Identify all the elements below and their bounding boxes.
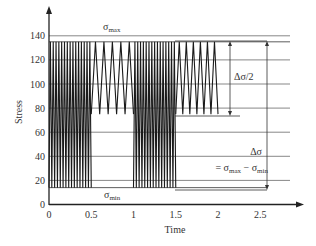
y-tick-label: 60 (35, 127, 45, 138)
stress-signal (49, 42, 218, 188)
x-tick-label: 2.5 (254, 209, 267, 220)
y-tick-label: 140 (30, 30, 45, 41)
signal-segment (91, 42, 133, 114)
half-range-label: Δσ/2 (234, 71, 254, 82)
arrow-down-icon (228, 111, 232, 116)
x-tick-label: 2 (216, 209, 221, 220)
y-tick-label: 100 (30, 79, 45, 90)
x-tick-label: 0 (47, 209, 52, 220)
signal-segment (49, 42, 91, 188)
range-label: Δσ (250, 146, 262, 157)
y-tick-labels: 020406080100120140 (30, 30, 45, 210)
x-tick-labels: 00.511.522.5 (47, 209, 267, 220)
x-tick-label: 0.5 (85, 209, 98, 220)
x-tick-label: 1.5 (170, 209, 183, 220)
y-tick-label: 20 (35, 175, 45, 186)
sigma-max-label: σmax (103, 21, 121, 34)
x-tick-label: 1 (131, 209, 136, 220)
y-tick-label: 0 (40, 199, 45, 210)
x-axis-arrow-icon (296, 202, 304, 208)
y-tick-label: 120 (30, 54, 45, 65)
signal-segment (176, 42, 218, 114)
range-formula: = σmax − σmin (215, 162, 268, 175)
signal-segment (134, 42, 176, 188)
fatigue-stress-chart: 020406080100120140 00.511.522.5 Time Str… (0, 0, 316, 246)
y-tick-label: 80 (35, 103, 45, 114)
x-axis-label: Time (165, 224, 186, 235)
y-tick-label: 40 (35, 151, 45, 162)
y-axis-arrow-icon (46, 6, 52, 14)
y-axis-label: Stress (13, 100, 24, 124)
sigma-min-label: σmin (104, 189, 121, 202)
